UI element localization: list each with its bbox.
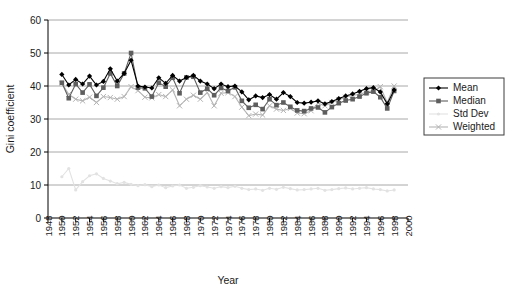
marker-std <box>282 186 285 189</box>
xtick-label-1966: 1966 <box>167 215 178 236</box>
xtick-label-1976: 1976 <box>236 215 247 236</box>
marker-std <box>116 182 119 185</box>
marker-std <box>379 188 382 191</box>
marker-median <box>436 99 441 104</box>
ytick-label-40: 40 <box>30 81 42 92</box>
marker-weighted <box>198 97 203 102</box>
marker-weighted <box>87 95 92 100</box>
marker-median <box>129 51 134 56</box>
marker-std <box>233 185 236 188</box>
marker-std <box>81 180 84 183</box>
marker-mean <box>308 100 313 105</box>
marker-median <box>177 91 182 96</box>
xtick-label-1986: 1986 <box>306 215 317 236</box>
legend-label-mean: Mean <box>453 82 478 93</box>
marker-std <box>60 175 63 178</box>
marker-std <box>143 183 146 186</box>
marker-weighted <box>232 94 237 99</box>
xtick-label-1996: 1996 <box>375 215 386 236</box>
legend-label-std: Std Dev <box>453 108 489 119</box>
ytick-label-60: 60 <box>30 15 42 26</box>
marker-median <box>295 108 300 113</box>
xtick-label-1970: 1970 <box>195 215 206 236</box>
ytick-label-10: 10 <box>30 180 42 191</box>
marker-median <box>205 86 210 91</box>
marker-median <box>330 105 335 110</box>
marker-weighted <box>267 103 272 108</box>
marker-median <box>274 103 279 108</box>
xtick-label-1960: 1960 <box>126 215 137 236</box>
marker-weighted <box>239 105 244 110</box>
marker-median <box>198 90 203 95</box>
marker-std <box>365 186 368 189</box>
marker-median <box>309 106 314 111</box>
marker-std <box>226 186 229 189</box>
marker-std <box>164 186 167 189</box>
marker-std <box>150 185 153 188</box>
marker-median <box>364 91 369 96</box>
marker-mean <box>108 66 113 71</box>
chart-canvas: 0102030405060194819501952195419561958196… <box>0 0 511 292</box>
xtick-label-1972: 1972 <box>209 215 220 236</box>
marker-median <box>288 104 293 109</box>
marker-std <box>261 189 264 192</box>
marker-median <box>94 94 99 99</box>
marker-std <box>303 188 306 191</box>
marker-mean <box>260 95 265 100</box>
marker-median <box>87 82 92 87</box>
xtick-label-1978: 1978 <box>250 215 261 236</box>
marker-median <box>323 110 328 115</box>
marker-std <box>344 186 347 189</box>
marker-median <box>350 97 355 102</box>
xtick-label-1974: 1974 <box>223 215 234 236</box>
xtick-label-1952: 1952 <box>70 215 81 236</box>
marker-std <box>102 177 105 180</box>
marker-median <box>66 96 71 101</box>
marker-std <box>192 186 195 189</box>
marker-std <box>289 187 292 190</box>
marker-std <box>296 188 299 191</box>
marker-median <box>260 107 265 112</box>
marker-std <box>240 187 243 190</box>
marker-std <box>74 188 77 191</box>
xtick-label-1984: 1984 <box>292 215 303 236</box>
marker-median <box>212 93 217 98</box>
ytick-label-20: 20 <box>30 147 42 158</box>
legend-label-median: Median <box>453 95 486 106</box>
marker-mean <box>225 84 230 89</box>
xtick-label-1956: 1956 <box>98 215 109 236</box>
xtick-label-1950: 1950 <box>56 215 67 236</box>
marker-median <box>385 106 390 111</box>
xtick-label-1954: 1954 <box>84 215 95 236</box>
marker-std <box>219 185 222 188</box>
marker-median <box>267 97 272 102</box>
marker-std <box>330 188 333 191</box>
marker-std <box>185 187 188 190</box>
xtick-label-1998: 1998 <box>389 215 400 236</box>
marker-std <box>268 187 271 190</box>
xtick-label-1968: 1968 <box>181 215 192 236</box>
marker-std <box>206 185 209 188</box>
marker-std <box>129 183 132 186</box>
marker-median <box>336 101 341 106</box>
marker-weighted <box>378 84 383 89</box>
y-axis-title: Gini coefficient <box>4 85 16 154</box>
marker-weighted <box>128 84 133 89</box>
marker-median <box>240 99 245 104</box>
marker-std <box>323 189 326 192</box>
marker-std <box>316 187 319 190</box>
legend-label-weighted: Weighted <box>453 121 495 132</box>
marker-weighted <box>212 103 217 108</box>
xtick-label-1958: 1958 <box>112 215 123 236</box>
gini-coefficient-chart: 0102030405060194819501952195419561958196… <box>0 0 511 292</box>
marker-weighted <box>177 103 182 108</box>
marker-std <box>309 187 312 190</box>
marker-std <box>136 184 139 187</box>
marker-std <box>358 187 361 190</box>
xtick-label-1980: 1980 <box>264 215 275 236</box>
marker-median <box>80 90 85 95</box>
marker-mean <box>315 98 320 103</box>
marker-std <box>95 172 98 175</box>
marker-median <box>115 84 120 89</box>
marker-weighted <box>184 97 189 102</box>
